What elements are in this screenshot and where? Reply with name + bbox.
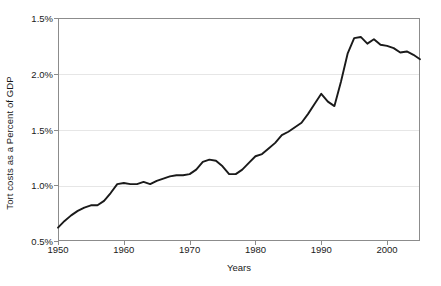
series-line-tort-costs [58,37,420,228]
y-axis-tick-label: 0.5% [3,236,53,247]
x-axis-tick-label: 1970 [179,244,200,255]
x-axis-tick-mark [387,241,388,245]
x-axis-tick-mark [255,241,256,245]
x-axis-tick-mark [321,241,322,245]
y-axis-tick-mark [54,74,58,75]
y-axis-tick-mark [54,185,58,186]
y-axis-tick-label: 1.5% [3,13,53,24]
y-axis-tick-label: 1.5% [3,124,53,135]
x-axis-tick-mark [190,241,191,245]
x-axis-tick-label: 1990 [311,244,332,255]
data-line-layer [58,18,420,241]
x-axis-tick-label: 2000 [377,244,398,255]
x-axis-tick-label: 1960 [113,244,134,255]
tort-costs-line-chart: Tort costs as a Percent of GDP 0.5%1.0%1… [0,0,441,286]
y-axis-tick-label: 1.0% [3,180,53,191]
x-axis-tick-label: 1950 [47,244,68,255]
y-axis-tick-label: 2.0% [3,68,53,79]
x-axis-tick-label: 1980 [245,244,266,255]
x-axis-title: Years [58,262,420,273]
y-axis-tick-mark [54,130,58,131]
y-axis-tick-label-group: 0.5%1.0%1.5%2.0%1.5% [0,18,53,241]
y-axis-tick-mark [54,18,58,19]
x-axis-tick-mark [124,241,125,245]
x-axis-tick-label-group: 195019601970198019902000 [58,244,420,258]
x-axis-tick-mark [58,241,59,245]
